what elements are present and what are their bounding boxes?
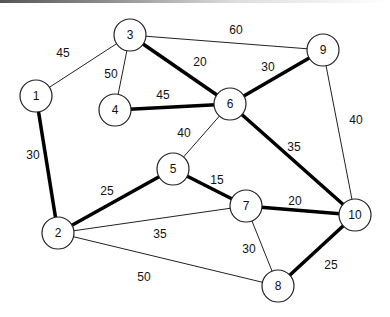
edge-2-8 bbox=[58, 233, 278, 286]
node-label: 6 bbox=[227, 97, 234, 111]
node-7: 7 bbox=[230, 190, 262, 222]
edge-weight-6-5: 40 bbox=[177, 126, 191, 140]
node-label: 10 bbox=[348, 208, 362, 222]
edge-weight-1-3: 45 bbox=[56, 46, 70, 60]
node-3: 3 bbox=[114, 19, 146, 51]
node-10: 10 bbox=[339, 199, 371, 231]
edge-weight-8-10: 25 bbox=[324, 258, 338, 272]
edge-3-9 bbox=[130, 35, 323, 50]
edge-3-6 bbox=[130, 35, 230, 104]
edge-weight-4-6: 45 bbox=[156, 88, 170, 102]
edge-weight-9-10: 40 bbox=[349, 113, 363, 127]
edge-weight-3-4: 50 bbox=[104, 67, 118, 81]
node-9: 9 bbox=[307, 34, 339, 66]
edge-layer bbox=[36, 35, 355, 286]
node-label: 5 bbox=[170, 162, 177, 176]
node-1: 1 bbox=[20, 80, 52, 112]
edge-weight-7-10: 20 bbox=[288, 194, 302, 208]
edge-weight-5-7: 15 bbox=[210, 173, 224, 187]
node-label: 4 bbox=[112, 103, 119, 117]
edge-weight-6-10: 35 bbox=[287, 140, 301, 154]
node-label: 7 bbox=[243, 199, 250, 213]
node-6: 6 bbox=[214, 88, 246, 120]
node-2: 2 bbox=[42, 217, 74, 249]
node-label: 1 bbox=[33, 89, 40, 103]
edge-1-3 bbox=[36, 35, 130, 96]
edge-2-7 bbox=[58, 206, 246, 233]
weighted-graph: 4530506020453040354025153550203025 12345… bbox=[0, 0, 390, 317]
edge-weight-2-8: 50 bbox=[137, 270, 151, 284]
edge-5-2 bbox=[58, 169, 173, 233]
node-label: 3 bbox=[127, 28, 134, 42]
edge-weight-2-7: 35 bbox=[153, 227, 167, 241]
node-label: 8 bbox=[275, 279, 282, 293]
node-8: 8 bbox=[262, 270, 294, 302]
node-4: 4 bbox=[99, 94, 131, 126]
edge-weight-7-8: 30 bbox=[242, 242, 256, 256]
edge-weight-5-2: 25 bbox=[100, 184, 114, 198]
edge-weight-6-9: 30 bbox=[261, 60, 275, 74]
edge-4-6 bbox=[115, 104, 230, 110]
node-5: 5 bbox=[157, 153, 189, 185]
node-label: 2 bbox=[55, 226, 62, 240]
edge-weight-3-9: 60 bbox=[229, 23, 243, 37]
edge-weight-3-6: 20 bbox=[193, 55, 207, 69]
node-label: 9 bbox=[320, 43, 327, 57]
edge-1-2 bbox=[36, 96, 58, 233]
edge-weight-1-2: 30 bbox=[26, 148, 40, 162]
